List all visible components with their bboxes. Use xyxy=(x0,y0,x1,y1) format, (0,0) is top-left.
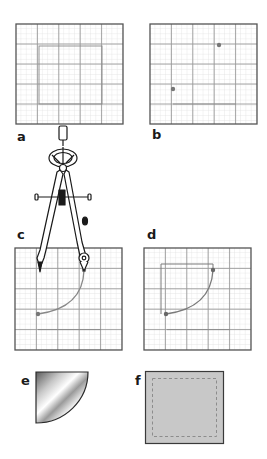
grid-panel-a xyxy=(16,24,123,124)
grid-panel-d xyxy=(144,248,251,350)
square-fabric-shape xyxy=(146,372,224,444)
point-center xyxy=(36,312,40,316)
quarter-circle-shape xyxy=(36,372,88,423)
point-arc-start xyxy=(164,312,168,316)
point-top-right xyxy=(217,43,221,47)
point-arc-end xyxy=(211,268,215,272)
grid-panel-c xyxy=(15,248,122,350)
diagram-canvas xyxy=(0,0,267,459)
point-bottom-left xyxy=(171,87,175,91)
grid-panel-b xyxy=(150,24,257,124)
